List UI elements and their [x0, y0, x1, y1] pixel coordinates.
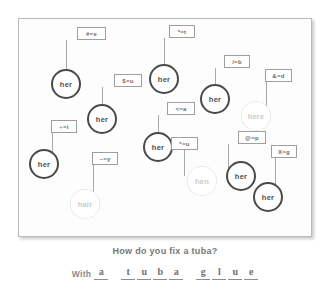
riddle-answer-row: With atubaglue: [0, 266, 330, 280]
answer-word: a: [94, 266, 108, 280]
answer-blank[interactable]: u: [137, 266, 151, 280]
code-label-box: *=t: [169, 25, 195, 38]
code-label-box: @=p: [238, 131, 266, 144]
answer-blank[interactable]: g: [196, 266, 210, 280]
with-label: With: [72, 269, 92, 280]
balloon-circle-her: her: [149, 64, 179, 94]
balloon-stem-line: [184, 150, 185, 176]
answer-blank[interactable]: a: [169, 266, 183, 280]
answer-blank[interactable]: e: [244, 266, 258, 280]
balloon-circle-here: here: [241, 101, 271, 131]
riddle-question: How do you fix a tuba?: [0, 246, 330, 256]
balloon-circle-her: her: [51, 69, 81, 99]
code-label-box: <=a: [167, 102, 195, 115]
answer-word: glue: [196, 266, 258, 280]
balloon-circle-hair: hair: [70, 189, 100, 219]
code-label-box: $=u: [114, 74, 142, 87]
balloon-stem-line: [164, 38, 165, 64]
balloon-circle-her: her: [87, 104, 117, 134]
riddle-block: How do you fix a tuba?: [0, 246, 330, 256]
code-label-box: &=d: [265, 69, 292, 82]
balloon-circle-her: her: [29, 149, 59, 179]
balloon-stem-line: [66, 40, 67, 69]
code-label-box: X=g: [271, 145, 297, 158]
code-label-box: /=b: [224, 55, 250, 68]
answer-blank[interactable]: a: [94, 266, 108, 280]
balloon-circle-her: her: [143, 132, 173, 162]
balloon-circle-hen: hen: [187, 166, 217, 196]
answer-blank[interactable]: u: [228, 266, 242, 280]
answer-word: tuba: [121, 266, 183, 280]
code-label-box: #=e: [77, 27, 106, 40]
balloon-circle-her: her: [200, 84, 230, 114]
worksheet-panel: #=eher*=ther$=uher/=bher&=dhere<=aher÷=i…: [18, 18, 312, 237]
code-label-box: ÷=i: [51, 120, 77, 133]
balloon-circle-her: her: [253, 182, 283, 212]
code-label-box: *=u: [171, 137, 198, 150]
balloon-circle-her: her: [226, 161, 256, 191]
answer-blank[interactable]: b: [153, 266, 167, 280]
code-label-box: ~=y: [92, 152, 118, 165]
answer-blank[interactable]: t: [121, 266, 135, 280]
answer-blank[interactable]: l: [212, 266, 226, 280]
